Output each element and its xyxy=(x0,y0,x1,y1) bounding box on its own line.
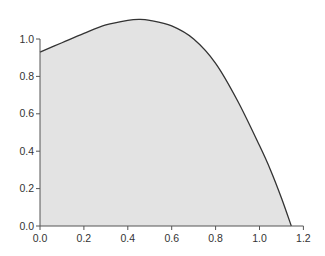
x-tick-label: 0.4 xyxy=(120,232,135,244)
x-tick-label: 0.2 xyxy=(77,232,92,244)
y-tick-label: 1.0 xyxy=(19,33,34,45)
area-fill xyxy=(40,19,291,226)
y-tick-label: 0.8 xyxy=(19,70,34,82)
x-tick-label: 1.2 xyxy=(296,232,311,244)
x-tick-label: 0.0 xyxy=(33,232,48,244)
y-axis: 0.00.20.40.60.81.0 xyxy=(19,33,40,232)
y-tick-label: 0.0 xyxy=(19,220,34,232)
x-tick-label: 0.6 xyxy=(164,232,179,244)
x-tick-label: 0.8 xyxy=(208,232,223,244)
area-chart: 0.00.20.40.60.81.0 0.00.20.40.60.81.01.2 xyxy=(0,0,325,256)
plot-area xyxy=(40,19,291,226)
y-tick-label: 0.2 xyxy=(19,182,34,194)
x-tick-label: 1.0 xyxy=(252,232,267,244)
x-axis: 0.00.20.40.60.81.01.2 xyxy=(33,226,311,244)
y-tick-label: 0.6 xyxy=(19,107,34,119)
y-tick-label: 0.4 xyxy=(19,145,34,157)
